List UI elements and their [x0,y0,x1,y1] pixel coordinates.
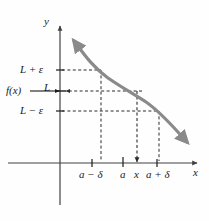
y-axis-label: y [44,16,49,27]
y-tick-label-L-plus-eps: L + ε [20,64,43,75]
x-axis-label: x [193,167,198,178]
y-tick-label-L-minus-eps: L − ε [20,105,43,116]
x-tick-label-a-plus-delta: a + δ [146,169,170,180]
x-tick-label-a: a [120,169,126,180]
fx-callout-label: f(x) [6,85,21,96]
y-tick-label-L: L [44,82,50,93]
x-tick-label-x: x [134,169,139,180]
limit-definition-figure: y x L + ε L L − ε f(x) a − δ a x a + δ [0,0,209,221]
x-tick-label-a-minus-delta: a − δ [79,169,103,180]
